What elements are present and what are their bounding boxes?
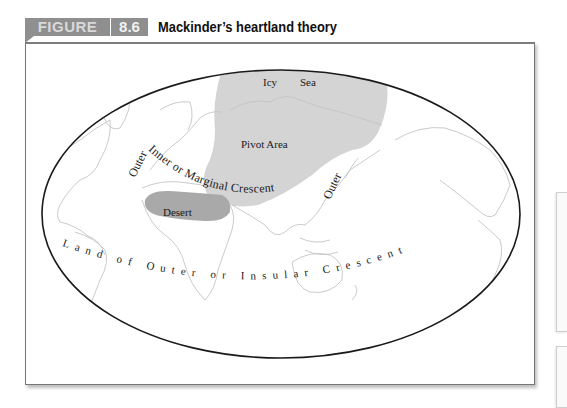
label-outer-insular-crescent: Land of Outer or Insular Crescent bbox=[61, 237, 409, 282]
label-outer-right: Outer bbox=[320, 171, 344, 202]
label-icy: Icy bbox=[263, 76, 278, 88]
label-sea: Sea bbox=[300, 76, 316, 88]
label-outer-left: Outer bbox=[125, 149, 150, 180]
label-pivot-area: Pivot Area bbox=[241, 138, 288, 150]
label-desert: Desert bbox=[163, 206, 192, 218]
